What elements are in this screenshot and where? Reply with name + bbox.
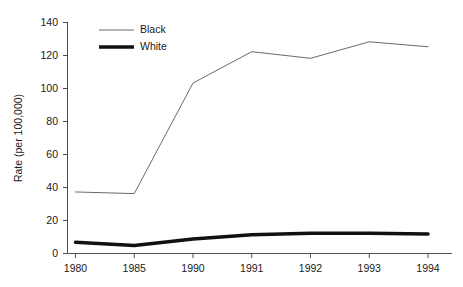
chart-legend: BlackWhite (99, 23, 167, 52)
y-axis-title: Rate (per 100,000) (12, 94, 24, 182)
x-tick-label: 1994 (416, 262, 440, 274)
x-tick-label: 1993 (358, 262, 382, 274)
y-tick-label: 20 (46, 214, 58, 226)
x-axis-tick-marks (76, 254, 429, 259)
y-tick-label: 40 (46, 181, 58, 193)
y-tick-label: 60 (46, 148, 58, 160)
legend-label-black: Black (140, 23, 166, 35)
y-tick-label: 140 (40, 16, 58, 28)
y-tick-label: 120 (40, 49, 58, 61)
y-tick-label: 0 (52, 247, 58, 259)
x-axis-tick-labels: 1980198519901991199219931994 (64, 262, 440, 274)
series-lines (76, 42, 429, 246)
x-tick-label: 1991 (240, 262, 264, 274)
x-tick-label: 1985 (123, 262, 147, 274)
x-tick-label: 1992 (299, 262, 323, 274)
series-line-black (76, 42, 429, 194)
y-axis-tick-labels: 020406080100120140 (40, 16, 58, 259)
chart-container: 020406080100120140 198019851990199119921… (0, 0, 463, 287)
x-tick-label: 1980 (64, 262, 88, 274)
series-line-white (76, 233, 429, 245)
y-tick-label: 100 (40, 82, 58, 94)
line-chart: 020406080100120140 198019851990199119921… (0, 0, 463, 287)
y-axis-tick-marks (63, 23, 68, 254)
y-tick-label: 80 (46, 115, 58, 127)
legend-label-white: White (140, 40, 167, 52)
x-tick-label: 1990 (181, 262, 205, 274)
